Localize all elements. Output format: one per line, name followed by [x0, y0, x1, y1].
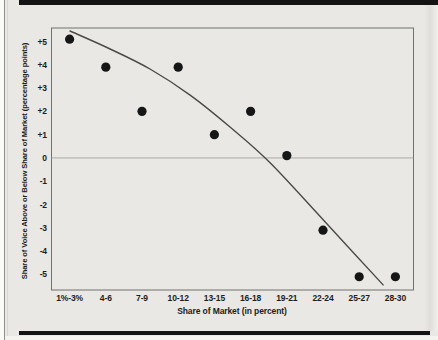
data-point-dot	[137, 107, 146, 116]
y-tick-label: -4	[40, 246, 48, 256]
x-tick-label: 25-27	[349, 293, 371, 303]
y-tick-label: -5	[40, 269, 48, 279]
y-tick-label: -2	[40, 200, 48, 210]
data-point-dot	[391, 272, 400, 281]
y-axis-tick-labels: +5+4+3+2+10-1-2-3-4-5	[38, 37, 48, 280]
data-point-dot	[101, 63, 110, 72]
data-point-dot	[318, 226, 327, 235]
x-tick-label: 10-12	[168, 293, 190, 303]
y-tick-label: +4	[38, 60, 48, 70]
data-point-dot	[210, 130, 219, 139]
data-point-dot	[174, 63, 183, 72]
x-tick-label: 4-6	[100, 293, 112, 303]
y-tick-label: +3	[38, 83, 48, 93]
data-point-dot	[246, 107, 255, 116]
y-tick-label: 0	[42, 153, 47, 163]
x-axis-tick-labels: 1%-3%4-67-910-1213-1516-1819-2122-2425-2…	[56, 293, 406, 303]
y-tick-label: -1	[40, 176, 48, 186]
x-tick-label: 28-30	[385, 293, 407, 303]
y-tick-label: +1	[38, 130, 48, 140]
y-tick-label: +5	[38, 37, 48, 47]
x-tick-label: 7-9	[136, 293, 148, 303]
y-tick-label: +2	[38, 106, 48, 116]
x-tick-label: 16-18	[240, 293, 262, 303]
data-point-dot	[355, 272, 364, 281]
x-axis-title: Share of Market (in percent)	[177, 306, 287, 316]
data-point-dot	[65, 35, 74, 44]
x-tick-label: 22-24	[312, 293, 334, 303]
data-point-dot	[282, 151, 291, 160]
x-tick-label: 1%-3%	[56, 293, 83, 303]
scanned-page: +5+4+3+2+10-1-2-3-4-5 1%-3%4-67-910-1213…	[0, 0, 438, 340]
x-tick-label: 19-21	[276, 293, 298, 303]
y-axis-title: Share of Voice Above or Below Share of M…	[20, 42, 29, 279]
y-tick-label: -3	[40, 223, 48, 233]
x-tick-label: 13-15	[204, 293, 226, 303]
scatter-chart: +5+4+3+2+10-1-2-3-4-5 1%-3%4-67-910-1213…	[0, 0, 438, 340]
